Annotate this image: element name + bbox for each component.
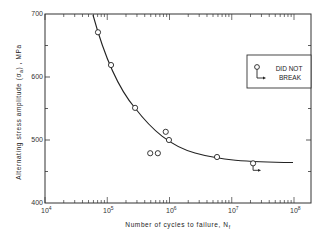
fitted-sn-curve <box>93 15 293 163</box>
sn-fatigue-chart: 700 600 500 400 104 105 106 107 108 Numb… <box>0 0 330 239</box>
x-tick-label-1e4: 104 <box>41 205 52 214</box>
data-point-marker <box>132 105 137 110</box>
x-axis-label: Number of cycles to failure, Nf <box>125 221 230 230</box>
plot-frame <box>45 14 311 203</box>
data-point-marker <box>148 151 153 156</box>
data-point-marker <box>214 154 219 159</box>
runout-point-marker <box>250 161 255 166</box>
x-tick-label-1e8: 108 <box>290 205 301 214</box>
x-tick-label-1e6: 106 <box>166 205 177 214</box>
data-point-marker <box>166 137 171 142</box>
data-point-marker <box>163 129 168 134</box>
x-tick-labels: 104 105 106 107 108 <box>41 205 301 214</box>
legend-runout-marker-icon <box>255 65 260 70</box>
runout-arrowhead-icon <box>258 169 261 172</box>
data-point-marker <box>155 151 160 156</box>
did-not-break-points <box>250 161 261 172</box>
data-point-marker <box>95 30 100 35</box>
y-tick-label-700: 700 <box>31 10 43 17</box>
y-tick-label-500: 500 <box>31 136 43 143</box>
x-tick-label-1e5: 105 <box>103 205 114 214</box>
y-tick-label-400: 400 <box>31 199 43 206</box>
x-tick-label-1e7: 107 <box>228 205 239 214</box>
legend-text-line1: DID NOT <box>276 65 303 72</box>
x-axis-ticks <box>45 14 294 203</box>
data-point-marker <box>108 62 113 67</box>
data-points <box>95 30 219 160</box>
legend-text-line2: BREAK <box>279 74 302 81</box>
y-tick-label-600: 600 <box>31 73 43 80</box>
y-axis-label: Alternating stress amplitude (σa) , MPa <box>15 44 24 179</box>
legend: DID NOT BREAK <box>247 55 311 88</box>
